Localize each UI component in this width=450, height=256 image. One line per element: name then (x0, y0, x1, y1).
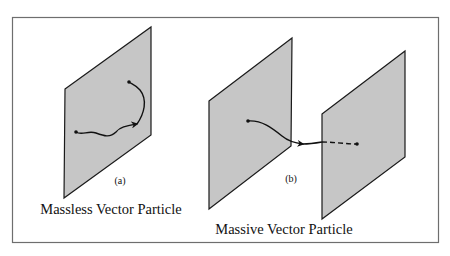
path-start-dot (74, 130, 78, 134)
plane-a (64, 27, 151, 198)
particle-diagram: (a) Massless Vector Particle (b) Massive… (0, 0, 450, 256)
plane-b-right (322, 51, 405, 219)
panel-a: (a) Massless Vector Particle (40, 27, 181, 217)
panel-a-caption: Massless Vector Particle (40, 201, 181, 217)
path-end-dot (355, 142, 359, 146)
panel-b-label: (b) (285, 173, 297, 185)
plane-b-left (209, 38, 292, 209)
path-end-dot (127, 80, 131, 84)
panel-b-caption: Massive Vector Particle (215, 221, 352, 237)
path-start-dot (246, 119, 250, 123)
massive-particle-path-mid (303, 142, 322, 144)
panel-b: (b) Massive Vector Particle (209, 38, 405, 237)
panel-a-label: (a) (114, 175, 125, 187)
